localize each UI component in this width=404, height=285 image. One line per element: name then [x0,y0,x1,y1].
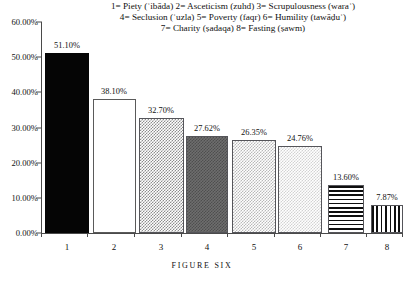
y-axis-tick [36,127,42,128]
x-axis-tick-label: 1 [65,243,70,252]
y-axis-tick-label: 0.00% [0,229,38,238]
y-axis-tick-label: 50.00% [0,53,38,62]
legend-line-1: 1= Piety (ʿibāda) 2= Asceticism (zuhd) 3… [70,1,396,12]
y-axis-labels: 0.00%10.00%20.00%30.00%40.00%50.00%60.00… [0,0,38,285]
x-axis-tick [366,233,367,237]
y-axis-tick-label: 20.00% [0,158,38,167]
x-axis-tick [41,233,42,237]
x-axis-tick-label: 4 [205,243,210,252]
figure-six-bar-chart: 1= Piety (ʿibāda) 2= Asceticism (zuhd) 3… [0,0,404,285]
x-axis-tick [87,233,88,237]
bar-value-label: 24.76% [287,135,313,143]
x-axis-tick [134,233,135,237]
bar-4 [186,136,228,233]
bar-5 [232,140,276,233]
x-axis-tick [274,233,275,237]
y-axis-tick-label: 10.00% [0,194,38,203]
bar-value-label: 51.10% [54,42,80,50]
bar-3 [139,118,184,233]
y-axis-tick-label: 60.00% [0,18,38,27]
y-axis-tick [36,57,42,58]
x-axis-line [41,233,402,234]
y-axis-tick [36,92,42,93]
y-axis-tick-label: 30.00% [0,123,38,132]
x-axis-tick-label: 7 [344,243,349,252]
bar-1 [45,53,89,233]
plot-area [41,22,402,233]
x-axis-tick [402,233,403,237]
bar-6 [278,146,322,233]
y-axis-tick [36,22,42,23]
x-axis-tick-label: 2 [112,243,117,252]
x-axis-tick-label: 6 [298,243,303,252]
bar-value-label: 38.10% [101,88,127,96]
bar-7 [328,185,364,233]
x-axis-tick-label: 5 [252,243,257,252]
bar-2 [93,99,136,233]
x-axis-tick-label: 8 [385,243,390,252]
y-axis-tick [36,197,42,198]
x-axis-tick [181,233,182,237]
y-axis-tick [36,162,42,163]
bar-value-label: 26.35% [241,129,267,137]
x-axis-tick [320,233,321,237]
x-axis-tick-label: 3 [159,243,164,252]
figure-caption: FIGURE SIX [0,261,404,270]
bar-value-label: 7.87% [376,194,398,202]
bar-value-label: 27.62% [194,125,220,133]
x-axis-tick [227,233,228,237]
y-axis-tick-label: 40.00% [0,88,38,97]
bar-value-label: 13.60% [333,174,359,182]
bar-8 [371,205,403,233]
bar-value-label: 32.70% [148,107,174,115]
